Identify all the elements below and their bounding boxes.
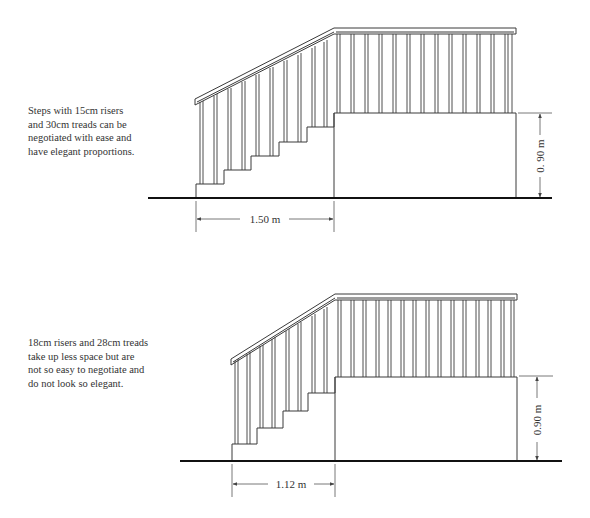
vertical-dimension-label: 0.90 m — [531, 404, 543, 435]
level-balusters — [337, 34, 512, 113]
level-balusters — [338, 300, 514, 377]
horizontal-dimension-label: 1.12 m — [276, 478, 307, 490]
vertical-dimension-label: 0. 90 m — [534, 139, 546, 173]
stair-profile — [196, 113, 516, 198]
horizontal-dimension-label: 1.50 m — [250, 213, 281, 225]
sloped-handrail — [195, 28, 334, 105]
level-handrail — [335, 294, 517, 300]
level-handrail — [334, 28, 516, 34]
sloped-balusters — [200, 40, 327, 184]
comfortable-stair-drawing — [148, 28, 552, 232]
steep-stair-drawing — [180, 294, 562, 497]
stair-diagrams: 1.50 m 0. 90 m — [0, 0, 590, 518]
